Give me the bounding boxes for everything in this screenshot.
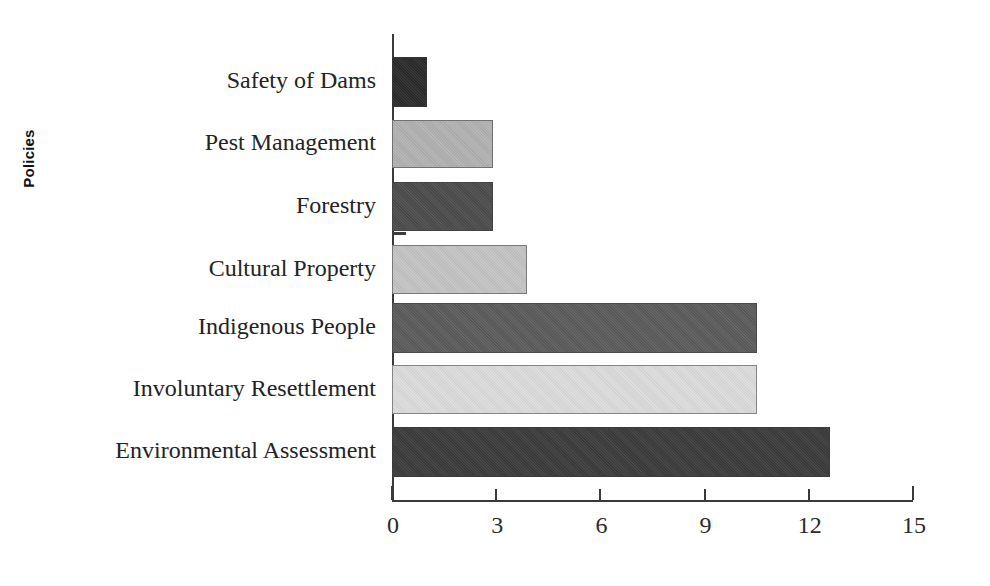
x-axis-line: [392, 500, 913, 502]
category-label: Safety of Dams: [227, 68, 376, 92]
x-axis-tick-label: 3: [467, 512, 527, 539]
bar-fill: [392, 365, 757, 414]
y-axis-title: Policies: [20, 99, 37, 219]
bar[interactable]: [392, 303, 757, 353]
category-label: Indigenous People: [198, 314, 376, 338]
x-axis-tick: [495, 489, 497, 500]
x-axis-tick: [704, 489, 706, 500]
scan-artifact-mark: [393, 232, 406, 235]
bar-fill: [392, 427, 830, 477]
x-axis-tick: [391, 486, 393, 500]
bar[interactable]: [392, 245, 527, 294]
bar[interactable]: [392, 57, 427, 107]
category-label: Involuntary Resettlement: [133, 376, 376, 400]
x-axis-tick-label: 15: [884, 512, 944, 539]
x-axis-tick-label: 0: [363, 512, 423, 539]
x-axis-tick: [808, 489, 810, 500]
plot-area: 03691215: [392, 34, 913, 500]
x-axis-tick: [599, 489, 601, 500]
x-axis-tick: [912, 486, 914, 500]
bar[interactable]: [392, 365, 757, 414]
bar[interactable]: [392, 427, 830, 477]
category-label: Pest Management: [205, 130, 376, 154]
category-label: Cultural Property: [209, 256, 376, 280]
category-label: Forestry: [296, 193, 376, 217]
bar-fill: [392, 120, 493, 168]
bar-fill: [392, 57, 427, 107]
bar-chart: Policies 03691215 Safety of DamsPest Man…: [0, 0, 990, 586]
x-axis-tick-label: 6: [571, 512, 631, 539]
bar-fill: [392, 245, 527, 294]
x-axis-tick-label: 9: [676, 512, 736, 539]
category-label: Environmental Assessment: [115, 438, 376, 462]
bar[interactable]: [392, 182, 493, 231]
x-axis-tick-label: 12: [780, 512, 840, 539]
bar-fill: [392, 182, 493, 231]
bar[interactable]: [392, 120, 493, 168]
bar-fill: [392, 303, 757, 353]
